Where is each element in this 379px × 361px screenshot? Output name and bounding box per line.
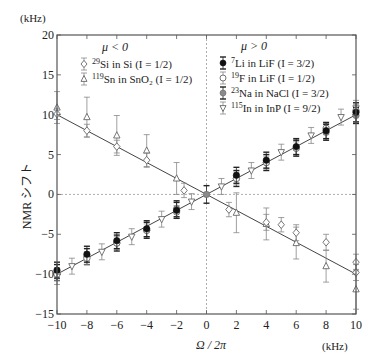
legend-entry-label: 115In in InP (I = 9/2) [231,101,321,115]
filled-circle-marker-icon [263,157,269,163]
triangle-down-marker-icon [188,199,194,205]
isotope-mass-number: 23 [231,86,239,95]
legend-entry-text: Sn in SnO₂ (I = 1/2) [104,73,193,86]
isotope-mass-number: 115 [231,101,243,110]
legend-entry-text: Na in NaCl (I = 3/2) [239,87,329,100]
diamond-marker-icon [323,238,329,246]
x-unit-label: (kHz) [322,340,348,353]
x-tick-label: 0 [204,318,210,332]
diamond-marker-icon [81,60,87,67]
filled-circle-marker-icon [323,127,329,133]
legend-entry-text: Si in Si (I = 1/2) [100,58,172,71]
legend-mu-positive: μ > 07Li in LiF (I = 3/2)19F in LiF (I =… [220,39,329,115]
triangle-marker-icon [233,209,239,215]
filled-circle-marker-icon [144,226,150,232]
legend-heading: μ < 0 [101,40,128,54]
y-tick-label: −10 [35,267,54,281]
filled-circle-marker-icon [220,60,226,66]
triangle-down-marker-icon [129,234,135,240]
triangle-marker-icon [81,76,87,82]
triangle-down-marker-icon [218,184,224,190]
gray-circle-marker-icon [220,90,226,96]
y-axis-title: NMR シフト [20,163,34,229]
triangle-down-marker-icon [69,264,75,270]
isotope-mass-number: 119 [92,72,104,81]
y-unit-label: (kHz) [20,12,46,25]
diamond-marker-icon [114,143,120,151]
triangle-down-marker-icon [338,115,344,121]
x-tick-label: −6 [110,318,123,332]
x-tick-label: 10 [350,318,362,332]
triangle-down-marker-icon [278,150,284,156]
triangle-down-marker-icon [248,168,254,174]
filled-circle-marker-icon [84,251,90,257]
isotope-mass-number: 19 [231,71,239,80]
y-tick-label: 10 [42,108,54,122]
x-tick-label: 4 [263,318,269,332]
triangle-down-marker-icon [220,106,226,112]
x-tick-label: −2 [170,318,183,332]
legend-heading: μ > 0 [240,39,267,53]
legend-mu-negative: μ < 029Si in Si (I = 1/2)119Sn in SnO₂ (… [81,40,193,86]
triangle-marker-icon [114,132,120,138]
x-axis-title: Ω / 2π [196,338,227,352]
triangle-marker-icon [144,147,150,153]
triangle-marker-icon [173,175,179,181]
nmr-shift-chart: −10−8−6−4−20246810−15−10−505101520 (kHz)… [0,0,379,361]
filled-circle-marker-icon [233,172,239,178]
x-tick-label: 6 [293,318,299,332]
legend-entry-text: Li in LiF (I = 3/2) [235,57,315,70]
y-tick-label: 5 [48,148,54,162]
diamond-marker-icon [84,127,90,135]
triangle-marker-icon [323,262,329,268]
filled-circle-marker-icon [114,237,120,243]
legend-entry-text: In in InP (I = 9/2) [243,102,321,115]
filled-circle-marker-icon [173,207,179,213]
y-tick-label: −15 [35,307,54,321]
triangle-marker-icon [84,113,90,119]
diamond-marker-icon [293,229,299,237]
legend-entry-label: 23Na in NaCl (I = 3/2) [231,86,329,100]
gray-circle-marker-icon [203,191,209,197]
diamond-marker-icon [278,221,284,229]
x-tick-label: 2 [233,318,239,332]
diamond-marker-icon [181,187,187,195]
y-tick-label: 0 [48,187,54,201]
legend-entry-label: 119Sn in SnO₂ (I = 1/2) [92,72,193,86]
legend-entry-text: F in LiF (I = 1/2) [239,72,315,85]
diamond-marker-icon [144,156,150,164]
isotope-mass-number: 29 [92,57,100,66]
legend-entry-label: 19F in LiF (I = 1/2) [231,71,315,85]
y-tick-label: 20 [42,28,54,42]
triangle-down-marker-icon [308,133,314,139]
filled-circle-marker-icon [293,143,299,149]
x-tick-label: 8 [323,318,329,332]
x-tick-label: −8 [81,318,94,332]
legend-entry-label: 7Li in LiF (I = 3/2) [231,56,315,70]
diamond-marker-icon [226,206,232,214]
y-tick-label: −5 [41,227,54,241]
triangle-down-marker-icon [99,249,105,255]
y-tick-label: 15 [42,68,54,82]
legend-entry-label: 29Si in Si (I = 1/2) [92,57,172,71]
open-circle-marker-icon [220,75,226,81]
x-tick-label: −4 [140,318,153,332]
